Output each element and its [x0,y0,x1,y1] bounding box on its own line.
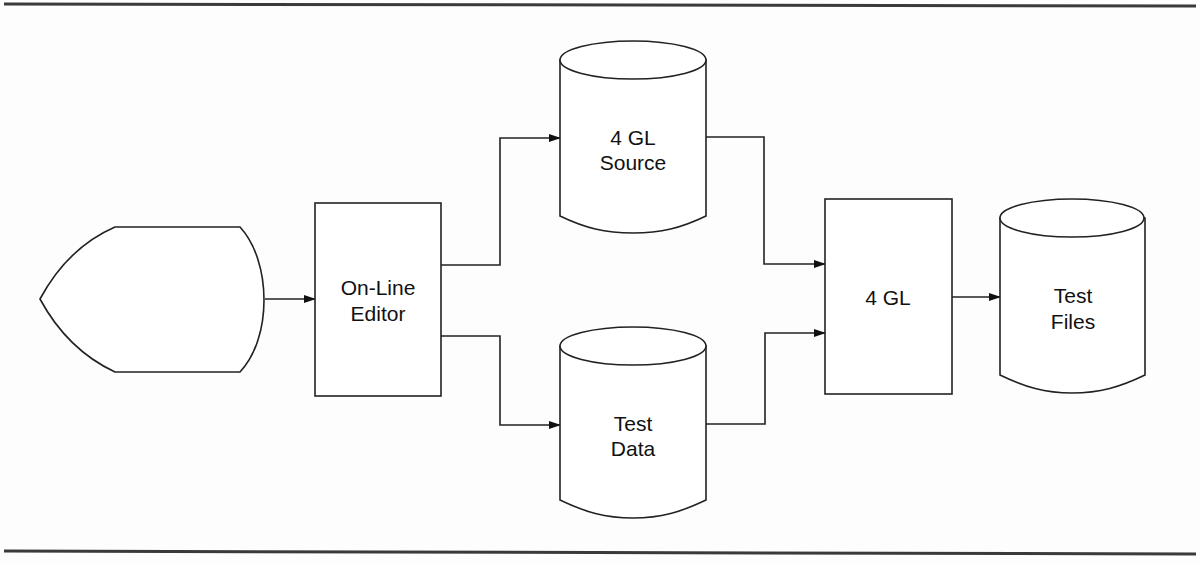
arrow-testdata-to-4gl [706,333,825,424]
arrow-source-to-4gl [706,137,825,264]
top-rule [4,4,1196,6]
4gl-process-node[interactable]: 4 GL [825,199,952,394]
arrow-editor-to-source [441,138,560,265]
editor-label-line2: Editor [351,302,406,325]
4gl-source-database[interactable]: 4 GL Source [560,41,706,233]
on-line-editor-node[interactable]: On-Line Editor [315,203,441,396]
4gl-label: 4 GL [865,286,911,309]
testdata-label-line1: Test [614,412,653,435]
source-label-line1: 4 GL [610,126,656,149]
flowchart-canvas: On-Line Editor 4 GL Source Test Data 4 G… [0,0,1200,564]
testdata-label-line2: Data [611,437,656,460]
test-files-database[interactable]: Test Files [1000,199,1145,393]
testfiles-label-line2: Files [1051,310,1095,333]
editor-label-line1: On-Line [341,276,416,299]
arrow-editor-to-testdata [441,336,560,425]
source-label-line2: Source [600,151,667,174]
testfiles-label-line1: Test [1054,284,1093,307]
bottom-rule [4,551,1196,554]
test-data-database[interactable]: Test Data [560,327,706,518]
display-shape[interactable] [40,227,264,372]
